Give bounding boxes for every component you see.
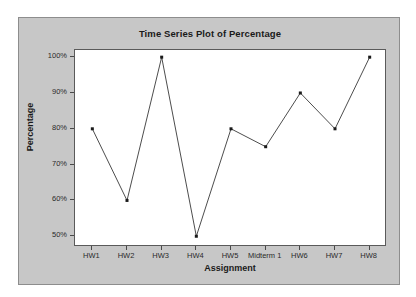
data-point <box>160 56 163 59</box>
data-point <box>195 235 198 238</box>
x-tick-label: HW7 <box>326 251 343 260</box>
data-point <box>230 127 233 130</box>
y-tick-label: 70% <box>27 159 67 168</box>
y-tick-label: 50% <box>27 230 67 239</box>
plot-area <box>74 49 386 246</box>
chart-title: Time Series Plot of Percentage <box>19 28 401 39</box>
data-point <box>126 199 129 202</box>
x-tick-label: HW1 <box>83 251 100 260</box>
y-tick-label: 90% <box>27 87 67 96</box>
series-line-percentage <box>92 57 369 236</box>
x-tick-label: HW4 <box>187 251 204 260</box>
y-tick-label: 100% <box>27 51 67 60</box>
series-plot <box>75 50 387 247</box>
data-point <box>91 127 94 130</box>
chart-screenshot: Time Series Plot of Percentage Percentag… <box>0 0 416 297</box>
x-tick-label: HW5 <box>222 251 239 260</box>
data-point <box>368 56 371 59</box>
data-point <box>334 127 337 130</box>
x-tick-label: HW3 <box>152 251 169 260</box>
data-point <box>299 91 302 94</box>
figure-panel: Time Series Plot of Percentage Percentag… <box>18 17 400 285</box>
data-point <box>264 145 267 148</box>
y-tick-label: 60% <box>27 194 67 203</box>
x-axis-title: Assignment <box>74 263 386 273</box>
x-tick-label: HW2 <box>118 251 135 260</box>
x-tick-label: HW8 <box>360 251 377 260</box>
x-tick-label: HW6 <box>291 251 308 260</box>
series-markers <box>91 56 371 238</box>
x-tick-label: Midterm 1 <box>248 251 281 260</box>
y-tick-label: 80% <box>27 123 67 132</box>
